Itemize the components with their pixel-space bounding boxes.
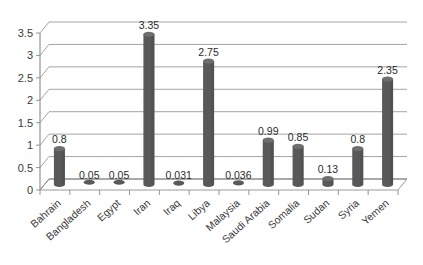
gridline (40, 67, 407, 78)
y-axis-label: 0 (27, 184, 33, 196)
bar-shading (211, 61, 214, 184)
chart-svg: 00.511.522.533.5 0.80.050.053.350.0312.7… (0, 0, 423, 265)
data-label: 3.35 (139, 19, 160, 31)
data-label: 0.031 (166, 169, 192, 181)
x-axis-ticks-group (40, 190, 398, 195)
bar-cap (352, 146, 363, 151)
bar-shading (390, 79, 393, 184)
chart-floor (40, 179, 407, 190)
y-axis-label: 1.5 (18, 117, 33, 129)
bar-shading (62, 149, 65, 185)
y-axis-label: 2.5 (18, 72, 33, 84)
svg-text:Somalia: Somalia (265, 196, 301, 230)
bar-cap (54, 146, 65, 151)
data-label: 0.99 (258, 125, 279, 137)
svg-text:Egypt: Egypt (94, 197, 122, 224)
svg-text:Yemen: Yemen (359, 196, 391, 227)
gridline (40, 89, 407, 100)
gridline (40, 112, 407, 123)
bar-shading (301, 146, 304, 184)
x-axis-category-label: Syria (335, 196, 361, 221)
floor-plane (40, 179, 407, 190)
data-label: 2.75 (198, 46, 219, 58)
y-axis-label: 2 (27, 94, 33, 106)
y-axis-ticks-group (36, 33, 40, 190)
data-label: 2.35 (377, 64, 398, 76)
y-axis-label: 3 (27, 49, 33, 61)
svg-text:Iran: Iran (131, 196, 153, 217)
gridline (40, 44, 407, 55)
data-label: 0.036 (225, 169, 251, 181)
data-label: 0.8 (52, 133, 67, 145)
gridlines-group (40, 22, 407, 190)
bar-shading (360, 149, 363, 185)
bar (233, 180, 244, 185)
y-axis-label: 1 (27, 139, 33, 151)
bars-group (54, 32, 393, 187)
bar-cap (143, 32, 154, 37)
x-axis-category-label: Yemen (359, 196, 391, 227)
y-axis-label: 0.5 (18, 162, 33, 174)
x-axis-category-label: Somalia (265, 196, 301, 230)
bar-cap (203, 59, 214, 64)
x-axis-category-label: Iraq (161, 196, 183, 217)
bar-shading (151, 34, 154, 184)
gridline (40, 157, 407, 168)
x-axis-category-label: Egypt (94, 197, 122, 224)
bar-chart: 00.511.522.533.5 0.80.050.053.350.0312.7… (0, 0, 423, 265)
data-label: 0.05 (79, 169, 100, 181)
x-axis-category-label: Iran (131, 196, 153, 217)
svg-text:Iraq: Iraq (161, 196, 183, 217)
y-axis-label: 3.5 (18, 27, 33, 39)
bar-cap (293, 144, 304, 149)
gridline (40, 179, 407, 190)
bar-cap (382, 76, 393, 81)
bar (173, 181, 184, 186)
bar-cap (263, 137, 274, 142)
data-label: 0.05 (109, 169, 130, 181)
category-labels-group: BahrainBangladeshEgyptIranIraqLibyaMalay… (28, 196, 391, 245)
bar-cap (322, 176, 333, 181)
data-label: 0.85 (288, 131, 309, 143)
svg-text:Sudan: Sudan (301, 196, 332, 225)
bar-shading (271, 140, 274, 184)
x-axis-category-label: Sudan (301, 196, 332, 225)
data-label: 0.8 (350, 133, 365, 145)
y-axis-labels-group: 00.511.522.533.5 (18, 27, 33, 196)
svg-text:Syria: Syria (335, 196, 361, 221)
data-label: 0.13 (318, 163, 339, 175)
gridline (40, 22, 407, 33)
